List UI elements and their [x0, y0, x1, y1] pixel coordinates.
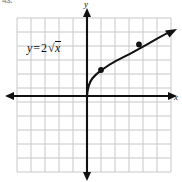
equation-operator: = [32, 41, 41, 55]
graph-figure: 43. [0, 0, 182, 182]
equation-label: y=2√x [27, 41, 61, 55]
curve-point-1 [98, 67, 104, 73]
radical-group: √x [48, 41, 61, 55]
equation-coefficient: 2 [41, 41, 47, 55]
y-axis-label: y [84, 0, 88, 9]
equation-radicand: x [55, 41, 61, 55]
curve-point-2 [136, 42, 142, 48]
radical-sign-icon: √ [48, 41, 55, 55]
x-axis-label: x [174, 92, 178, 102]
coordinate-plane-graphic [0, 0, 182, 182]
